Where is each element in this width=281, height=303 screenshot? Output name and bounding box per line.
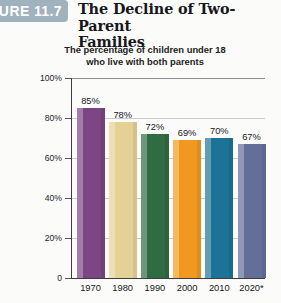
y-axis-tick-label: 0 xyxy=(14,274,62,283)
bar-chart-plot-area: 020%40%60%80%100% 85%78%72%69%70%67% 197… xyxy=(0,0,281,303)
bar[interactable] xyxy=(141,134,169,278)
y-axis-line xyxy=(71,78,72,279)
bar[interactable] xyxy=(109,122,137,278)
bar-shadow xyxy=(165,134,169,278)
y-axis-tick xyxy=(65,238,71,239)
bar-highlight xyxy=(109,122,115,278)
bar-highlight xyxy=(141,134,147,278)
bar-shadow xyxy=(197,140,201,278)
y-axis-tick xyxy=(65,158,71,159)
bar-shadow xyxy=(133,122,137,278)
plot-top-rule xyxy=(72,78,265,79)
bar[interactable] xyxy=(173,140,201,278)
y-axis-tick xyxy=(65,78,71,79)
y-axis-tick xyxy=(65,118,71,119)
bar-value-label: 67% xyxy=(230,132,274,142)
bar-value-label: 85% xyxy=(69,96,113,106)
bar-highlight xyxy=(173,140,179,278)
y-axis-tick-label: 60% xyxy=(14,154,62,163)
figure-panel: GURE 11.7 The Decline of Two-Parent Fami… xyxy=(0,0,281,303)
y-axis-tick-label: 80% xyxy=(14,114,62,123)
y-axis-tick xyxy=(65,198,71,199)
bar[interactable] xyxy=(77,108,105,278)
bar[interactable] xyxy=(238,144,266,278)
bar-shadow xyxy=(229,138,233,278)
bar-highlight xyxy=(238,144,244,278)
bar-shadow xyxy=(101,108,105,278)
bar[interactable] xyxy=(205,138,233,278)
bar-shadow xyxy=(262,144,266,278)
x-axis-line xyxy=(71,278,265,279)
x-axis-tick-label: 2020* xyxy=(230,283,274,293)
y-axis-tick xyxy=(65,278,71,279)
bar-highlight xyxy=(205,138,211,278)
y-axis-tick-label: 100% xyxy=(14,74,62,83)
y-axis-tick-label: 40% xyxy=(14,194,62,203)
bar-value-label: 78% xyxy=(101,110,145,120)
bar-highlight xyxy=(77,108,83,278)
y-axis-tick-label: 20% xyxy=(14,234,62,243)
